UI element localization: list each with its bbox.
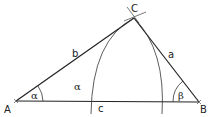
- side-label-b: b: [72, 48, 78, 59]
- right-arc: [134, 18, 162, 114]
- vertex-label-a: A: [4, 104, 11, 115]
- vertex-label-c: C: [131, 3, 138, 14]
- vertex-label-b: B: [200, 104, 207, 115]
- side-label-a: a: [168, 49, 174, 60]
- side-label-c: c: [98, 103, 104, 114]
- side-c: [16, 101, 199, 102]
- angle-alpha-arc: [38, 86, 43, 101]
- triangle-diagram: A B C b a c α α β: [0, 0, 212, 117]
- angle-label-beta: β: [178, 90, 184, 101]
- angle-label-alpha: α: [31, 90, 38, 101]
- side-a: [134, 18, 199, 102]
- angle-label-alpha-copy: α: [74, 81, 81, 92]
